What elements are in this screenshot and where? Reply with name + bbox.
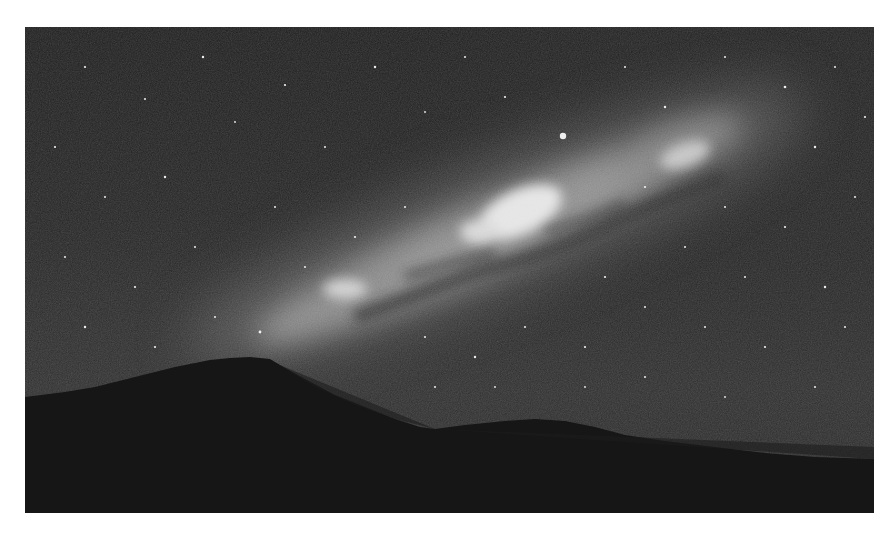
mountain-silhouette xyxy=(25,27,874,513)
night-sky-photo xyxy=(25,27,874,513)
